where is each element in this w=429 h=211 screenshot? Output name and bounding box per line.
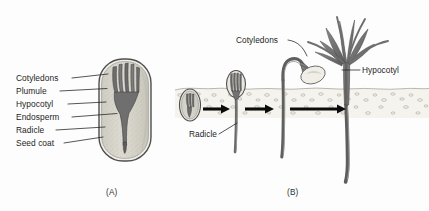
label-cotyledons-a: Cotyledons — [16, 73, 58, 83]
leader-cotyledons-b — [288, 40, 307, 56]
stage4-taproot — [346, 105, 348, 182]
label-cotyledons-b: Cotyledons — [236, 35, 278, 45]
label-seed-coat: Seed coat — [16, 138, 55, 148]
figure-canvas: Cotyledons Plumule Hypocotyl Endosperm R… — [0, 0, 429, 211]
label-hypocotyl-a: Hypocotyl — [16, 99, 53, 109]
leader-seed-coat — [64, 137, 103, 143]
label-endosperm: Endosperm — [16, 112, 59, 122]
seed-germination-figure: Cotyledons Plumule Hypocotyl Endosperm R… — [0, 0, 429, 211]
label-plumule: Plumule — [16, 86, 47, 96]
caption-panel-b: (B) — [287, 188, 299, 197]
label-radicle-b: Radicle — [189, 129, 217, 139]
panel-b-group: Cotyledons Hypocotyl Radicle (B) — [175, 17, 429, 197]
panel-a-group: Cotyledons Plumule Hypocotyl Endosperm R… — [16, 59, 151, 197]
leader-radicle — [56, 127, 105, 130]
caption-panel-a: (A) — [106, 188, 118, 197]
leader-radicle-b — [219, 123, 237, 134]
label-hypocotyl-b: Hypocotyl — [362, 65, 399, 75]
label-radicle-a: Radicle — [16, 125, 45, 135]
stage3-root — [282, 80, 284, 157]
stage-dormant-seed — [180, 89, 201, 121]
soil-band — [175, 88, 429, 118]
stage4-hypocotyl-stem — [344, 62, 350, 105]
